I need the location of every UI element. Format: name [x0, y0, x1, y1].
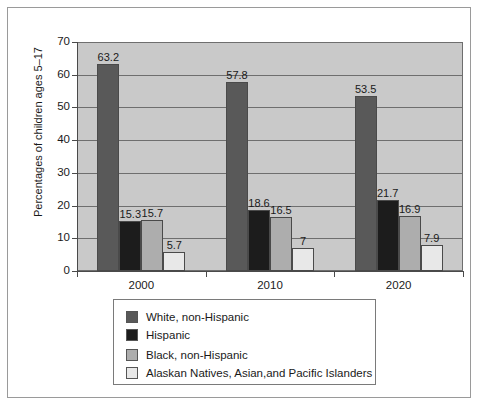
y-tick-mark [72, 173, 77, 174]
bar-value-label: 63.2 [91, 51, 125, 63]
y-tick-mark [72, 206, 77, 207]
legend-swatch [126, 349, 138, 361]
chart-figure: Percentages of children ages 5–17 010203… [7, 7, 471, 398]
legend-label: White, non-Hispanic [146, 311, 249, 323]
y-tick-mark [72, 238, 77, 239]
bar [119, 221, 141, 271]
legend-label: Hispanic [146, 329, 190, 341]
y-tick-mark [72, 42, 77, 43]
y-tick-label: 0 [26, 265, 70, 276]
bar-value-label: 15.7 [135, 207, 169, 219]
gridline [78, 75, 462, 76]
legend-label: Black, non-Hispanic [146, 349, 248, 361]
gridline [78, 42, 462, 43]
y-tick-mark [72, 107, 77, 108]
x-axis-line [77, 271, 464, 272]
chart-legend: White, non-HispanicHispanicBlack, non-Hi… [113, 299, 376, 385]
y-tick-label: 70 [26, 36, 70, 47]
gridline [78, 173, 462, 174]
bar [421, 245, 443, 271]
y-tick-label: 60 [26, 69, 70, 80]
x-tick-mark [77, 272, 78, 277]
bar [226, 82, 248, 271]
bar-value-label: 21.7 [371, 187, 405, 199]
bar-value-label: 16.9 [393, 203, 427, 215]
y-tick-label: 30 [26, 167, 70, 178]
y-axis-line [77, 42, 78, 272]
bar [292, 248, 314, 271]
x-tick-label: 2010 [230, 279, 310, 291]
legend-swatch [126, 329, 138, 341]
y-tick-label: 10 [26, 232, 70, 243]
bar-value-label: 5.7 [157, 239, 191, 251]
bar-value-label: 7 [286, 235, 320, 247]
x-tick-label: 2000 [101, 279, 181, 291]
bar-value-label: 53.5 [349, 83, 383, 95]
legend-label: Alaskan Natives, Asian,and Pacific Islan… [146, 367, 372, 379]
bar [163, 252, 185, 271]
x-tick-mark [334, 272, 335, 277]
bar [97, 64, 119, 271]
legend-swatch [126, 367, 138, 379]
legend-item: Alaskan Natives, Asian,and Pacific Islan… [126, 364, 372, 382]
y-tick-label: 40 [26, 134, 70, 145]
legend-item: Hispanic [126, 326, 190, 344]
x-tick-mark [206, 272, 207, 277]
y-tick-mark [72, 75, 77, 76]
bar-value-label: 16.5 [264, 204, 298, 216]
x-tick-mark [463, 272, 464, 277]
bar-value-label: 57.8 [220, 69, 254, 81]
y-tick-label: 20 [26, 200, 70, 211]
bar-value-label: 7.9 [415, 232, 449, 244]
legend-swatch [126, 311, 138, 323]
legend-item: Black, non-Hispanic [126, 346, 248, 364]
gridline [78, 107, 462, 108]
legend-item: White, non-Hispanic [126, 308, 249, 326]
x-tick-label: 2020 [359, 279, 439, 291]
bar [355, 96, 377, 271]
bar [248, 210, 270, 271]
y-axis-ticks: 010203040506070 [8, 8, 70, 399]
gridline [78, 140, 462, 141]
y-tick-label: 50 [26, 101, 70, 112]
y-tick-mark [72, 140, 77, 141]
